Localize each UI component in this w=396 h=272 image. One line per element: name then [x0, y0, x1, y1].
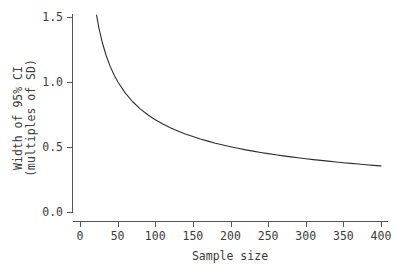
data-series-line — [97, 15, 381, 166]
x-tick-label: 0 — [77, 229, 84, 243]
y-tick-label: 0.5 — [42, 140, 63, 154]
y-axis-title-line1: Width of 95% CI — [11, 66, 25, 170]
x-tick-label: 200 — [220, 229, 241, 243]
x-tick-label: 150 — [182, 229, 203, 243]
x-tick-label: 50 — [111, 229, 125, 243]
y-axis-title-line2: (multiples of SD) — [24, 59, 38, 177]
y-axis-tick-labels: 0.00.51.01.5 — [42, 10, 63, 219]
x-axis-title: Sample size — [192, 249, 268, 263]
x-tick-label: 300 — [295, 229, 316, 243]
x-tick-label: 350 — [333, 229, 354, 243]
chart-figure: 0.00.51.01.5 050100150200250300350400 Sa… — [0, 0, 396, 272]
x-tick-label: 100 — [145, 229, 166, 243]
y-tick-label: 1.5 — [42, 10, 63, 24]
chart-canvas: 0.00.51.01.5 050100150200250300350400 Sa… — [0, 0, 396, 272]
x-axis-tick-labels: 050100150200250300350400 — [77, 229, 392, 243]
x-tick-label: 400 — [371, 229, 392, 243]
x-tick-label: 250 — [258, 229, 279, 243]
y-tick-label: 0.0 — [42, 205, 63, 219]
y-axis-ticks — [67, 18, 73, 213]
x-axis-ticks — [81, 222, 382, 228]
y-tick-label: 1.0 — [42, 75, 63, 89]
